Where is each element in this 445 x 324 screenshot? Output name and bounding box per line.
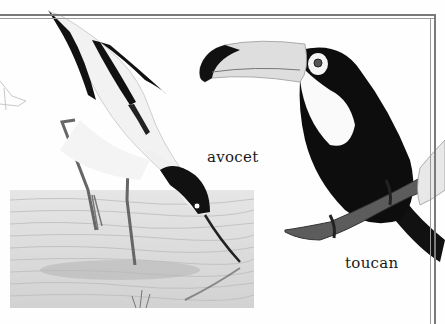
book-page: avocet toucan (0, 0, 445, 324)
frame-border-right (430, 14, 436, 324)
toucan-caption: toucan (345, 254, 399, 272)
frame-border-top (0, 14, 436, 20)
avocet-caption: avocet (207, 148, 259, 166)
